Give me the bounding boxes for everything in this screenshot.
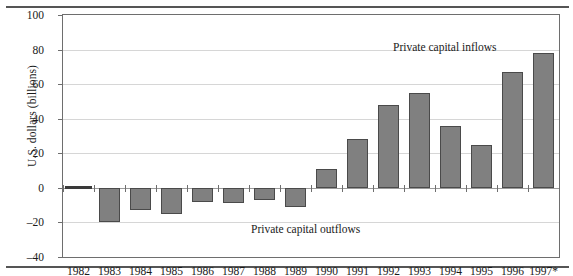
x-tick-label: 1996 [497, 265, 528, 276]
x-tick-label: 1994 [435, 265, 466, 276]
x-tick-label: 1983 [94, 265, 125, 276]
x-axis-tick [187, 185, 188, 192]
bar-group: 1997* [528, 15, 559, 257]
x-axis-tick [404, 185, 405, 192]
y-tick-label: 80 [0, 44, 44, 56]
bar [192, 188, 213, 202]
bar [378, 105, 399, 188]
x-tick-label: 1987 [218, 265, 249, 276]
x-axis-tick [497, 185, 498, 192]
x-axis-tick [249, 185, 250, 192]
bar-group: 1982 [63, 15, 94, 257]
x-axis-tick [218, 185, 219, 192]
x-axis-tick [94, 185, 95, 192]
y-tick-label: –20 [0, 216, 44, 228]
bar [161, 188, 182, 214]
x-axis-tick [373, 185, 374, 192]
bar-group: 1987 [218, 15, 249, 257]
y-tick-label: 0 [0, 182, 44, 194]
x-tick-label: 1991 [342, 265, 373, 276]
bar-group: 1984 [125, 15, 156, 257]
y-tick-label: 20 [0, 147, 44, 159]
bar-group: 1986 [187, 15, 218, 257]
x-tick-label: 1985 [156, 265, 187, 276]
x-tick-label: 1993 [404, 265, 435, 276]
x-tick-label: 1986 [187, 265, 218, 276]
x-axis-tick [125, 185, 126, 192]
x-axis-tick [466, 185, 467, 192]
bar [254, 188, 275, 200]
bar [285, 188, 306, 207]
bar-group: 1990 [311, 15, 342, 257]
x-tick-label: 1982 [63, 265, 94, 276]
bar [99, 188, 120, 223]
bar [347, 139, 368, 187]
bar [65, 186, 91, 189]
x-tick-label: 1992 [373, 265, 404, 276]
x-tick-label: 1984 [125, 265, 156, 276]
x-tick-label: 1989 [280, 265, 311, 276]
bar-group: 1983 [94, 15, 125, 257]
y-tick-label: 100 [0, 9, 44, 21]
plot-area: 100806040200–20–40 198219831984198519861… [62, 14, 560, 258]
x-tick-label: 1990 [311, 265, 342, 276]
y-tick-mark [58, 257, 63, 258]
x-axis-tick [280, 185, 281, 192]
x-axis-tick [528, 185, 529, 192]
x-tick-label: 1995 [466, 265, 497, 276]
x-axis-tick [63, 185, 64, 192]
bar-group: 1989 [280, 15, 311, 257]
y-tick-label: 40 [0, 113, 44, 125]
y-tick-label: 60 [0, 78, 44, 90]
x-axis-tick [342, 185, 343, 192]
bar [409, 93, 430, 188]
bar [223, 188, 244, 204]
top-rule [6, 6, 569, 8]
y-tick-label: –40 [0, 251, 44, 263]
annotation-outflows: Private capital outflows [251, 223, 360, 235]
bar-group: 1996 [497, 15, 528, 257]
bar [533, 53, 554, 188]
annotation-inflows: Private capital inflows [393, 41, 496, 53]
x-axis-tick [311, 185, 312, 192]
x-tick-label: 1997* [528, 265, 559, 276]
bar-group: 1985 [156, 15, 187, 257]
figure: U.S. dollars (billions) 100806040200–20–… [0, 0, 573, 276]
x-axis-tick [156, 185, 157, 192]
bar-group: 1988 [249, 15, 280, 257]
bar [440, 126, 461, 188]
bar [130, 188, 151, 210]
bar-group: 1991 [342, 15, 373, 257]
x-axis-tick [435, 185, 436, 192]
bar [502, 72, 523, 188]
bar [316, 169, 337, 188]
x-tick-label: 1988 [249, 265, 280, 276]
bar [471, 145, 492, 188]
